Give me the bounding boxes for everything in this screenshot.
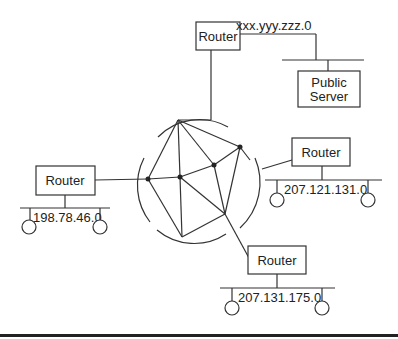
router-label: Router	[198, 29, 238, 44]
server-label-line2: Server	[310, 89, 349, 104]
network-diagram: Router xxx.yyy.zzz.0 Public Server Route…	[0, 0, 398, 339]
host-icon	[361, 193, 375, 207]
link-left-router-cloud	[95, 179, 148, 180]
network-label: 198.78.46.0	[33, 210, 102, 225]
router-bottom: Router 207.131.175.0	[220, 214, 335, 315]
network-cloud	[137, 120, 260, 244]
public-server: Public Server	[282, 60, 364, 107]
host-icon	[315, 301, 329, 315]
cloud-arc-left	[137, 158, 150, 222]
link-bottom-router-cloud	[225, 214, 249, 258]
router-label: Router	[301, 145, 341, 160]
router-right: Router 207.121.131.0	[240, 138, 382, 207]
server-label-line1: Public	[311, 75, 347, 90]
cloud-arc-top	[158, 120, 228, 137]
router-left: Router 198.78.46.0	[20, 166, 148, 234]
host-icon	[93, 220, 107, 234]
network-label: 207.121.131.0	[284, 182, 367, 197]
router-label: Router	[45, 173, 85, 188]
mesh-node	[212, 163, 217, 168]
host-icon	[22, 220, 36, 234]
router-label: Router	[257, 253, 297, 268]
link-right-router-cloud	[262, 160, 292, 169]
router-top: Router xxx.yyy.zzz.0	[178, 18, 316, 120]
host-icon	[225, 301, 239, 315]
bottom-rule	[0, 334, 398, 337]
network-label: 207.131.175.0	[238, 290, 321, 305]
link-label: xxx.yyy.zzz.0	[236, 18, 312, 33]
host-icon	[270, 193, 284, 207]
mesh-node	[178, 175, 183, 180]
cloud-arc-right	[240, 158, 260, 228]
